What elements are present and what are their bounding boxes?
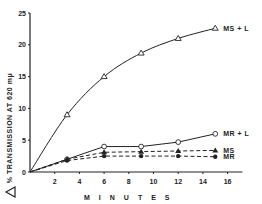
series-mr: MR <box>30 153 235 172</box>
y-tick-label: 20 <box>18 41 26 48</box>
delta-icon <box>6 187 15 197</box>
axes: 0510152025246810121416 <box>18 10 242 186</box>
data-point <box>213 155 217 159</box>
x-tick-label: 4 <box>77 178 81 185</box>
line-chart: 0510152025246810121416 MS + LMR + LMSMR … <box>0 0 262 204</box>
series-group: MS + LMR + LMSMR <box>30 25 250 172</box>
y-tick-label: 0 <box>22 169 26 176</box>
data-point <box>176 140 181 145</box>
data-point <box>102 154 106 158</box>
data-point <box>139 144 144 149</box>
x-tick-label: 16 <box>224 178 232 185</box>
x-tick-label: 12 <box>174 178 182 185</box>
y-tick-label: 15 <box>18 73 26 80</box>
series-label: MR <box>223 153 235 160</box>
data-point <box>176 154 180 158</box>
data-point <box>212 147 218 152</box>
x-axis-label: MINUTES <box>84 194 179 201</box>
data-point <box>212 25 218 30</box>
y-tick-label: 25 <box>18 10 26 17</box>
data-point <box>213 131 218 136</box>
data-point <box>138 149 144 154</box>
y-tick-label: 10 <box>18 105 26 112</box>
x-tick-label: 8 <box>127 178 131 185</box>
x-tick-label: 6 <box>102 178 106 185</box>
y-axis-label: % TRANSMISSION AT 620 mμ <box>6 73 14 183</box>
series-label: MS + L <box>223 25 249 32</box>
data-point <box>65 158 69 162</box>
x-tick-label: 14 <box>199 178 207 185</box>
y-tick-label: 5 <box>22 137 26 144</box>
x-tick-label: 2 <box>53 178 57 185</box>
series-ms: MS <box>30 147 235 172</box>
x-tick-label: 10 <box>150 178 158 185</box>
data-point <box>102 144 107 149</box>
data-point <box>139 154 143 158</box>
series-label: MR + L <box>223 130 249 137</box>
